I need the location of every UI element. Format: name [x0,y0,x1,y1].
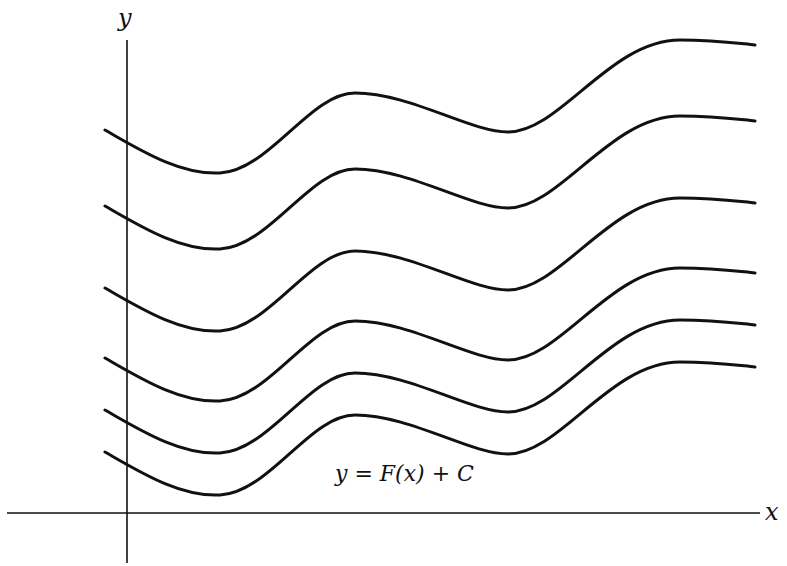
curve-3 [105,198,755,331]
curve-2 [105,116,755,249]
curve-family [105,40,755,495]
curve-4 [105,268,755,401]
curve-1 [105,40,755,173]
equation-label: y = F(x) + C [335,461,474,486]
y-axis-label: y [118,4,132,32]
x-axis-label: x [765,498,779,526]
